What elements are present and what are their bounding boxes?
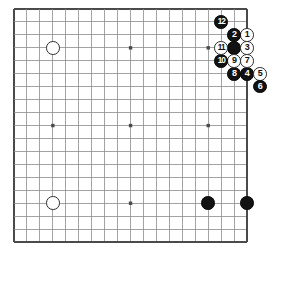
- star-point: [207, 124, 210, 127]
- move-number-label: 1: [245, 30, 250, 39]
- move-stone-5: 5: [253, 67, 267, 81]
- move-stone-12: 12: [214, 15, 228, 29]
- move-number-label: 11: [218, 43, 225, 51]
- white-stone: [46, 196, 60, 210]
- go-board-diagram: 123456789101112: [0, 0, 286, 290]
- move-stone-2: 2: [227, 28, 241, 42]
- star-point: [207, 46, 210, 49]
- move-number-label: 7: [245, 56, 250, 65]
- move-number-label: 4: [245, 69, 250, 78]
- black-stone: [227, 41, 241, 55]
- move-stone-3: 3: [240, 41, 254, 55]
- move-stone-4: 4: [240, 67, 254, 81]
- move-number-label: 2: [232, 30, 237, 39]
- move-stone-8: 8: [227, 67, 241, 81]
- move-number-label: 10: [218, 56, 225, 64]
- black-stone: [201, 196, 215, 210]
- star-point: [51, 124, 54, 127]
- move-stone-11: 11: [214, 41, 228, 55]
- move-number-label: 8: [232, 69, 237, 78]
- move-stone-10: 10: [214, 54, 228, 68]
- black-stone: [240, 196, 254, 210]
- star-point: [129, 124, 132, 127]
- star-point: [129, 202, 132, 205]
- white-stone: [46, 41, 60, 55]
- move-number-label: 12: [218, 17, 225, 25]
- move-number-label: 5: [258, 69, 263, 78]
- move-stone-7: 7: [240, 54, 254, 68]
- move-number-label: 6: [258, 82, 263, 91]
- star-point: [129, 46, 132, 49]
- move-number-label: 9: [232, 56, 237, 65]
- move-number-label: 3: [245, 43, 250, 52]
- move-stone-1: 1: [240, 28, 254, 42]
- move-stone-9: 9: [227, 54, 241, 68]
